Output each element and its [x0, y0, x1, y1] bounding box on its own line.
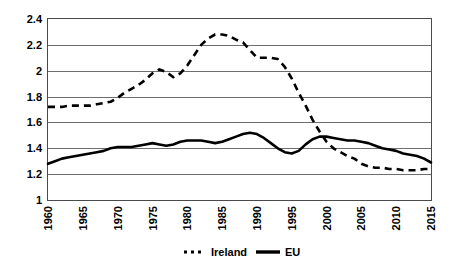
y-tick-label-1.8: 1.8 — [27, 91, 42, 103]
x-tick-label-1975: 1975 — [147, 206, 159, 230]
x-tick-label-1985: 1985 — [216, 206, 228, 230]
legend-label-ireland: Ireland — [211, 246, 247, 258]
y-tick-label-2.4: 2.4 — [27, 13, 43, 25]
y-tick-label-1.2: 1.2 — [27, 168, 42, 180]
x-tick-label-1990: 1990 — [251, 206, 263, 230]
y-tick-label-2.2: 2.2 — [27, 39, 42, 51]
y-tick-label-1.4: 1.4 — [27, 142, 43, 154]
x-tick-label-2010: 2010 — [390, 206, 402, 230]
x-tick-label-1980: 1980 — [181, 206, 193, 230]
fertility-rate-line-chart: 11.21.41.61.822.22.4 1960196519701975198… — [0, 0, 450, 268]
x-tick-label-2015: 2015 — [425, 206, 437, 230]
legend-label-eu: EU — [285, 246, 300, 258]
x-tick-label-2000: 2000 — [321, 206, 333, 230]
x-tick-label-1960: 1960 — [42, 206, 54, 230]
x-tick-label-2005: 2005 — [355, 206, 367, 230]
y-tick-label-2: 2 — [36, 65, 42, 77]
x-tick-label-1970: 1970 — [112, 206, 124, 230]
x-tick-label-1995: 1995 — [286, 206, 298, 230]
x-tick-label-1965: 1965 — [77, 206, 89, 230]
y-tick-label-1.6: 1.6 — [27, 116, 42, 128]
y-tick-label-1: 1 — [36, 194, 42, 206]
chart-canvas: 11.21.41.61.822.22.4 1960196519701975198… — [0, 0, 450, 268]
